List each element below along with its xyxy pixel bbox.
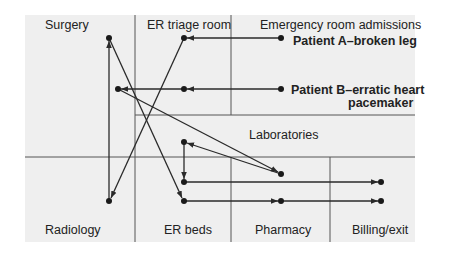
zone-label-surgery: Surgery	[45, 18, 90, 32]
node-er-bed-2	[181, 198, 187, 204]
node-er-lab-return	[181, 139, 187, 145]
node-billing-2	[378, 198, 384, 204]
node-patient-b-start	[278, 86, 284, 92]
zone-label-er-admissions: Emergency room admissions	[260, 18, 421, 32]
patient-b-label-line1: Patient B–erratic heart	[291, 83, 425, 97]
node-laboratory	[278, 171, 284, 177]
node-patient-a-start	[278, 35, 284, 41]
zone-label-radiology: Radiology	[45, 223, 101, 237]
floor-plan-background	[25, 15, 415, 242]
patient-flow-diagram: Surgery ER triage room Emergency room ad…	[0, 0, 449, 256]
zone-label-er-triage: ER triage room	[147, 18, 231, 32]
node-triage-top	[181, 35, 187, 41]
node-surgery-top	[106, 35, 112, 41]
node-surgery-left	[115, 86, 121, 92]
zone-label-laboratories: Laboratories	[249, 128, 319, 142]
node-er-bed-1	[181, 179, 187, 185]
patient-b-label-line2: pacemaker	[348, 96, 413, 110]
zone-label-billing: Billing/exit	[352, 223, 409, 237]
node-radiology	[106, 198, 112, 204]
zone-label-pharmacy: Pharmacy	[255, 223, 312, 237]
patient-a-label: Patient A–broken leg	[293, 34, 417, 48]
node-billing-1	[378, 179, 384, 185]
node-triage-mid	[181, 86, 187, 92]
zone-label-er-beds: ER beds	[164, 223, 212, 237]
node-pharmacy	[278, 198, 284, 204]
